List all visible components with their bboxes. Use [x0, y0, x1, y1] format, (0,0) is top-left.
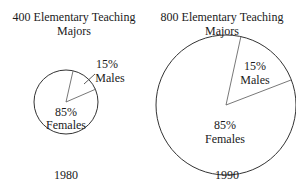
pie-1980-females-percent: 85%	[46, 105, 86, 119]
pie-1980-title-line1: 400 Elementary Teaching	[0, 10, 148, 24]
pie-1990-title-line2: Majors	[148, 24, 296, 38]
pie-1990-males-percent: 15%	[235, 59, 275, 73]
pie-1980-males-percent: 15%	[92, 57, 122, 71]
pie-1980-title-line2: Majors	[0, 24, 148, 38]
pie-1980-year-label: 1980	[46, 168, 86, 182]
pie-1990	[156, 35, 296, 175]
pie-1980-females-label: Females	[42, 118, 90, 132]
pie-1990-males-label: Males	[235, 73, 275, 87]
pie-1990-year-label: 1990	[207, 168, 247, 182]
pie-1980-males-label: Males	[92, 71, 128, 85]
pie-1990-females-percent: 85%	[205, 118, 245, 132]
pie-1990-title-line1: 800 Elementary Teaching	[148, 10, 296, 24]
pie-1990-females-label: Females	[200, 132, 250, 146]
